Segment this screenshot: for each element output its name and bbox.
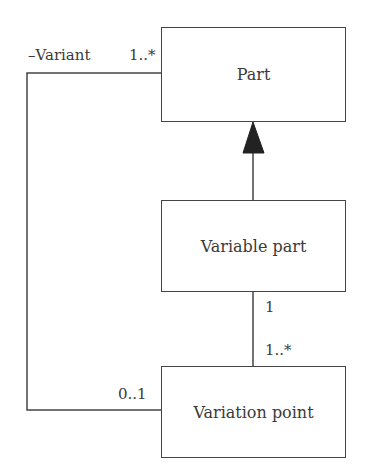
class-part: Part [161,27,346,122]
variant-association-line [27,73,161,410]
variant-role-label: –Variant [28,48,91,63]
class-variable-part-name: Variable part [201,237,307,256]
variation-point-top-multiplicity: 1..* [265,343,292,358]
variation-point-left-multiplicity: 0..1 [118,387,147,402]
class-variation-point: Variation point [161,366,346,458]
class-variation-point-name: Variation point [193,403,313,422]
variant-multiplicity-label: 1..* [129,48,156,63]
class-variable-part: Variable part [161,200,346,292]
variable-part-multiplicity: 1 [265,300,275,315]
generalization-arrowhead-icon [243,122,264,153]
class-part-name: Part [237,65,271,84]
